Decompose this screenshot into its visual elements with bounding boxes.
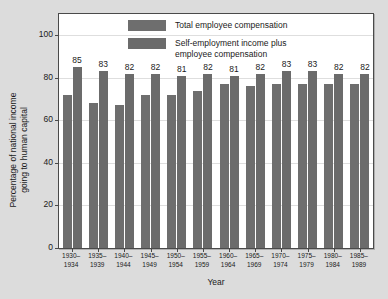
chart-legend: Total employee compensation Self-employm… bbox=[128, 20, 287, 66]
y-axis-tick-mark bbox=[55, 248, 59, 249]
y-axis-tick-mark bbox=[55, 78, 59, 79]
legend-label-series-2-line1: Self-employment income plus bbox=[175, 38, 287, 48]
legend-label-series-1: Total employee compensation bbox=[175, 20, 287, 31]
x-axis-tick-label-line1: 1945– bbox=[141, 252, 159, 261]
legend-swatch-series-2 bbox=[128, 38, 166, 49]
x-axis-tick-label-line1: 1940– bbox=[114, 252, 132, 261]
bar-series-1 bbox=[167, 95, 176, 248]
bar-series-1 bbox=[298, 84, 307, 248]
x-axis-tick-label: 1945–1949 bbox=[141, 252, 159, 270]
y-axis-tick-label: 60 bbox=[44, 114, 53, 124]
bar-series-1 bbox=[89, 103, 98, 248]
legend-swatch-series-1 bbox=[128, 20, 166, 31]
bar-series-2 bbox=[308, 71, 317, 248]
bar-series-1 bbox=[272, 84, 281, 248]
bar-series-2 bbox=[360, 74, 369, 248]
x-axis-tick-label-line1: 1975– bbox=[298, 252, 316, 261]
bar-series-1 bbox=[115, 105, 124, 248]
y-axis-tick-mark bbox=[55, 163, 59, 164]
x-axis-tick-label-line1: 1965– bbox=[245, 252, 263, 261]
x-axis-tick-label-line2: 1964 bbox=[219, 261, 237, 270]
y-axis-title-line2: going to human capital bbox=[19, 107, 29, 193]
x-axis-tick-label-line1: 1980– bbox=[324, 252, 342, 261]
bar-series-1 bbox=[141, 95, 150, 248]
bar-series-1 bbox=[324, 84, 333, 248]
x-axis-tick-label-line1: 1985– bbox=[350, 252, 368, 261]
x-axis-tick-label: 1965–1969 bbox=[245, 252, 263, 270]
bar-group: 82 bbox=[350, 14, 369, 248]
y-axis-tick-label: 20 bbox=[44, 199, 53, 209]
y-axis-title-line1: Percentage of national income bbox=[8, 92, 18, 207]
y-axis-tick-mark bbox=[55, 120, 59, 121]
bar-series-2 bbox=[256, 74, 265, 248]
legend-item-self-employment-income: Self-employment income plusemployee comp… bbox=[128, 38, 287, 59]
x-axis-tick-label-line1: 1960– bbox=[219, 252, 237, 261]
x-axis-tick-label-line2: 1949 bbox=[141, 261, 159, 270]
y-axis-tick-label: 80 bbox=[44, 72, 53, 82]
x-axis-tick-label: 1985–1989 bbox=[350, 252, 368, 270]
bar-series-2 bbox=[203, 74, 212, 248]
x-axis-tick-label: 1960–1964 bbox=[219, 252, 237, 270]
x-axis-tick-label: 1935–1939 bbox=[88, 252, 106, 270]
x-axis-tick-label: 1980–1984 bbox=[324, 252, 342, 270]
x-axis-tick-label-line2: 1934 bbox=[62, 261, 80, 270]
bar-series-2 bbox=[334, 74, 343, 248]
bar-series-2 bbox=[73, 67, 82, 248]
bar-series-2 bbox=[282, 71, 291, 248]
bar-value-label: 83 bbox=[99, 59, 108, 69]
legend-label-series-2: Self-employment income plusemployee comp… bbox=[175, 38, 287, 59]
x-axis-tick-label-line1: 1935– bbox=[88, 252, 106, 261]
legend-item-total-employee-compensation: Total employee compensation bbox=[128, 20, 287, 31]
y-axis-tick-mark bbox=[55, 205, 59, 206]
bar-series-2 bbox=[230, 76, 239, 248]
bar-series-2 bbox=[177, 76, 186, 248]
bar-group: 83 bbox=[89, 14, 108, 248]
x-axis-tick-label: 1955–1959 bbox=[193, 252, 211, 270]
x-axis-tick-label-line2: 1989 bbox=[350, 261, 368, 270]
x-axis-tick-label-line2: 1974 bbox=[271, 261, 289, 270]
bar-series-1 bbox=[193, 91, 202, 248]
bar-series-1 bbox=[63, 95, 72, 248]
y-axis-tick-mark bbox=[55, 35, 59, 36]
x-axis-title: Year bbox=[58, 277, 374, 287]
bar-group: 83 bbox=[298, 14, 317, 248]
x-axis-tick-label: 1970–1974 bbox=[271, 252, 289, 270]
x-axis-tick-label-line2: 1954 bbox=[167, 261, 185, 270]
x-axis-tick-label-line1: 1955– bbox=[193, 252, 211, 261]
x-axis-tick-label: 1930–1934 bbox=[62, 252, 80, 270]
bar-value-label: 82 bbox=[360, 62, 369, 72]
bar-value-label: 85 bbox=[72, 55, 81, 65]
bar-series-1 bbox=[220, 84, 229, 248]
bar-series-2 bbox=[125, 74, 134, 248]
bar-series-1 bbox=[246, 86, 255, 248]
x-axis-tick-label: 1950–1954 bbox=[167, 252, 185, 270]
x-axis-tick-label-line2: 1944 bbox=[114, 261, 132, 270]
bar-group: 85 bbox=[63, 14, 82, 248]
x-axis-tick-label-line1: 1930– bbox=[62, 252, 80, 261]
x-axis-tick-label-line2: 1939 bbox=[88, 261, 106, 270]
bar-series-1 bbox=[350, 84, 359, 248]
y-axis-tick-label: 40 bbox=[44, 157, 53, 167]
x-axis-tick-label-line1: 1950– bbox=[167, 252, 185, 261]
bar-value-label: 83 bbox=[308, 59, 317, 69]
chart-figure: 020406080100 Percentage of national inco… bbox=[0, 0, 388, 299]
y-axis-tick-label: 100 bbox=[39, 29, 53, 39]
x-axis-tick-label-line1: 1970– bbox=[271, 252, 289, 261]
y-axis-title: Percentage of national income going to h… bbox=[8, 55, 30, 245]
bar-series-2 bbox=[99, 71, 108, 248]
bar-series-2 bbox=[151, 74, 160, 248]
legend-label-series-2-line2: employee compensation bbox=[175, 49, 267, 59]
x-axis-tick-label: 1940–1944 bbox=[114, 252, 132, 270]
x-axis-tick-label-line2: 1984 bbox=[324, 261, 342, 270]
x-axis-tick-label: 1975–1979 bbox=[298, 252, 316, 270]
x-axis-tick-label-line2: 1979 bbox=[298, 261, 316, 270]
y-axis-tick-label: 0 bbox=[48, 242, 53, 252]
bar-value-label: 82 bbox=[334, 62, 343, 72]
bar-group: 82 bbox=[324, 14, 343, 248]
x-axis-tick-label-line2: 1959 bbox=[193, 261, 211, 270]
x-axis-tick-label-line2: 1969 bbox=[245, 261, 263, 270]
